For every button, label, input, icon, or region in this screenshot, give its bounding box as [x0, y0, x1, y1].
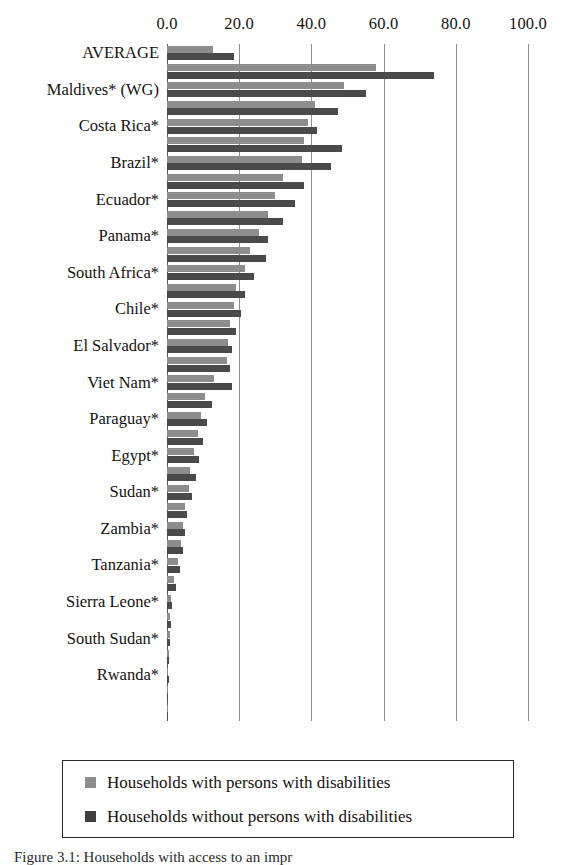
y-category-label-ecuador: Ecuador*	[96, 190, 159, 210]
bar-without-disabilities-9	[167, 218, 283, 225]
bar-without-disabilities-30	[167, 602, 172, 609]
bar-without-disabilities-31	[167, 621, 171, 628]
x-tick-label-1: 20.0	[224, 14, 254, 34]
y-axis-category-labels: AVERAGEMaldives* (WG)Costa Rica*Brazil*E…	[0, 44, 167, 721]
bar-with-disabilities-32	[167, 631, 170, 638]
bar-without-disabilities-12	[167, 273, 254, 280]
bar-without-disabilities-20	[167, 419, 207, 426]
y-category-label-el-salvador: El Salvador*	[73, 336, 159, 356]
bar-without-disabilities-7	[167, 182, 304, 189]
bar-with-disabilities-12	[167, 265, 245, 272]
bar-without-disabilities-23	[167, 474, 196, 481]
bar-without-disabilities-11	[167, 255, 266, 262]
bar-with-disabilities-3	[167, 101, 315, 108]
bar-with-disabilities-20	[167, 412, 201, 419]
gridline-80.0	[456, 44, 457, 721]
bar-without-disabilities-1	[167, 72, 434, 79]
bar-with-disabilities-27	[167, 540, 181, 547]
legend-item-with-disabilities: Households with persons with disabilitie…	[85, 769, 390, 795]
bar-with-disabilities-28	[167, 558, 178, 565]
plot-wrapper: AVERAGEMaldives* (WG)Costa Rica*Brazil*E…	[0, 44, 576, 724]
bar-with-disabilities-10	[167, 229, 259, 236]
bar-without-disabilities-4	[167, 127, 317, 134]
bar-with-disabilities-30	[167, 595, 171, 602]
bar-without-disabilities-24	[167, 493, 192, 500]
y-category-label-paraguay: Paraguay*	[89, 409, 159, 429]
x-tick-label-0: 0.0	[156, 14, 177, 34]
bar-without-disabilities-2	[167, 90, 366, 97]
bar-with-disabilities-21	[167, 430, 198, 437]
bar-with-disabilities-33	[167, 650, 169, 657]
bar-with-disabilities-25	[167, 503, 185, 510]
bar-without-disabilities-18	[167, 383, 232, 390]
bar-with-disabilities-7	[167, 174, 283, 181]
y-category-label-sudan: Sudan*	[110, 482, 160, 502]
legend-swatch-light-icon	[85, 777, 96, 788]
x-tick-label-5: 100.0	[509, 14, 547, 34]
y-category-label-egypt: Egypt*	[111, 446, 159, 466]
bar-with-disabilities-24	[167, 485, 189, 492]
x-tick-label-4: 80.0	[441, 14, 471, 34]
bar-without-disabilities-32	[167, 639, 170, 646]
bar-without-disabilities-26	[167, 529, 185, 536]
bar-with-disabilities-2	[167, 82, 344, 89]
y-category-label-costa-rica: Costa Rica*	[79, 116, 159, 136]
bar-with-disabilities-6	[167, 156, 302, 163]
y-category-label-rwanda: Rwanda*	[97, 665, 159, 685]
bar-with-disabilities-13	[167, 284, 236, 291]
y-category-label-south-africa: South Africa*	[67, 263, 159, 283]
bar-without-disabilities-25	[167, 511, 187, 518]
y-category-label-maldives-wg: Maldives* (WG)	[47, 80, 159, 100]
legend-label-with-disabilities: Households with persons with disabilitie…	[107, 774, 390, 791]
bar-with-disabilities-36	[167, 705, 168, 712]
y-category-label-zambia: Zambia*	[100, 519, 159, 539]
bar-with-disabilities-11	[167, 247, 250, 254]
bar-without-disabilities-14	[167, 310, 241, 317]
bar-with-disabilities-19	[167, 393, 205, 400]
y-category-label-tanzania: Tanzania*	[91, 555, 159, 575]
gridline-60.0	[384, 44, 385, 721]
y-category-label-sierra-leone: Sierra Leone*	[66, 592, 159, 612]
x-tick-label-2: 40.0	[297, 14, 327, 34]
bar-with-disabilities-31	[167, 613, 170, 620]
y-category-label-south-sudan: South Sudan*	[67, 629, 159, 649]
bar-with-disabilities-34	[167, 668, 168, 675]
x-tick-label-3: 60.0	[369, 14, 399, 34]
bar-without-disabilities-6	[167, 163, 331, 170]
y-category-label-average: AVERAGE	[82, 43, 159, 63]
bar-with-disabilities-26	[167, 522, 183, 529]
x-axis-tick-labels: 0.020.040.060.080.0100.0	[0, 0, 576, 44]
bar-without-disabilities-36	[167, 712, 168, 719]
bar-without-disabilities-19	[167, 401, 212, 408]
bar-without-disabilities-29	[167, 584, 176, 591]
chart-legend: Households with persons with disabilitie…	[62, 760, 514, 838]
bar-without-disabilities-21	[167, 438, 203, 445]
bar-without-disabilities-8	[167, 200, 295, 207]
bar-without-disabilities-3	[167, 108, 338, 115]
y-category-label-brazil: Brazil*	[110, 153, 159, 173]
legend-item-without-disabilities: Households without persons with disabili…	[85, 803, 412, 829]
bar-without-disabilities-0	[167, 53, 234, 60]
bar-without-disabilities-10	[167, 236, 268, 243]
legend-label-without-disabilities: Households without persons with disabili…	[107, 808, 412, 825]
bar-without-disabilities-13	[167, 291, 245, 298]
bar-with-disabilities-16	[167, 339, 228, 346]
bar-with-disabilities-14	[167, 302, 234, 309]
bar-with-disabilities-18	[167, 375, 214, 382]
bar-without-disabilities-34	[167, 676, 169, 683]
bar-without-disabilities-15	[167, 328, 236, 335]
figure-container: 0.020.040.060.080.0100.0 AVERAGEMaldives…	[0, 0, 576, 865]
bar-without-disabilities-28	[167, 566, 180, 573]
bar-with-disabilities-5	[167, 137, 304, 144]
bar-with-disabilities-4	[167, 119, 308, 126]
bar-without-disabilities-33	[167, 657, 169, 664]
bar-with-disabilities-15	[167, 320, 230, 327]
bar-without-disabilities-35	[167, 694, 168, 701]
y-category-label-viet-nam: Viet Nam*	[87, 373, 159, 393]
bar-without-disabilities-22	[167, 456, 199, 463]
y-category-label-chile: Chile*	[115, 299, 159, 319]
figure-caption: Figure 3.1: Households with access to an…	[14, 849, 562, 865]
bar-with-disabilities-22	[167, 448, 194, 455]
bar-with-disabilities-29	[167, 576, 174, 583]
bar-without-disabilities-16	[167, 346, 232, 353]
